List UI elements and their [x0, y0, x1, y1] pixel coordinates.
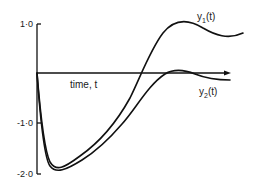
series-y2-label: y2(t) [199, 86, 217, 99]
x-axis-label: time, t [70, 79, 97, 90]
series-y1-label: y1(t) [197, 11, 215, 24]
x-axis-arrow-icon [224, 71, 231, 76]
y-tick-label-minus-1: -1·0 [17, 118, 33, 128]
response-chart: 1·0 -1·0 -2·0 time, t y1(t) y2(t) [0, 0, 259, 189]
y-tick-label-minus-2: -2·0 [17, 169, 33, 179]
y-tick-label-1: 1·0 [20, 19, 33, 29]
